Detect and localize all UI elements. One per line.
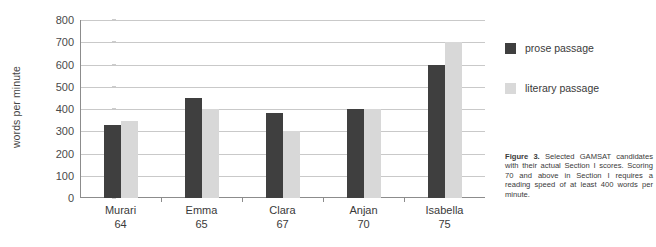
x-axis-separator: [404, 197, 405, 202]
plot-area: [80, 20, 485, 198]
x-axis-labels: Murari64Emma65Clara67Anjan70Isabella75: [80, 203, 485, 231]
bar[interactable]: [266, 113, 283, 198]
bar-group: [323, 20, 404, 198]
bar-group: [80, 20, 161, 198]
bar-groups: [80, 20, 485, 198]
x-axis-separator: [242, 197, 243, 202]
bar[interactable]: [121, 121, 138, 198]
x-axis-label: Murari64: [80, 203, 161, 231]
x-axis-label: Isabella75: [404, 203, 485, 231]
chart-legend: prose passageliterary passage: [505, 42, 651, 122]
x-axis-label-score: 70: [323, 217, 404, 231]
x-axis-label-name: Emma: [186, 204, 218, 216]
y-axis-tick-labels: 8007006005004003002001000: [36, 20, 74, 198]
x-axis-label-name: Isabella: [426, 204, 464, 216]
legend-item-label: literary passage: [525, 82, 599, 94]
x-axis-label: Anjan70: [323, 203, 404, 231]
y-tick-label: 400: [36, 103, 74, 115]
figure-container: words per minute 80070060050040030020010…: [0, 0, 656, 247]
figure-caption: Figure 3. Selected GAMSAT candidates wit…: [505, 152, 653, 199]
figure-caption-label: Figure 3.: [505, 152, 540, 161]
bar-group: [404, 20, 485, 198]
x-axis-separator: [161, 197, 162, 202]
bar[interactable]: [283, 131, 300, 198]
y-tick-label: 200: [36, 148, 74, 160]
y-tick-label: 300: [36, 125, 74, 137]
x-axis-label-name: Clara: [269, 204, 295, 216]
bar[interactable]: [445, 42, 462, 198]
x-axis-label-name: Murari: [105, 204, 136, 216]
bar[interactable]: [104, 125, 121, 198]
legend-item-label: prose passage: [525, 42, 594, 54]
x-axis-separator: [323, 197, 324, 202]
x-axis-label-score: 65: [161, 217, 242, 231]
y-tick-label: 500: [36, 81, 74, 93]
legend-swatch-icon: [505, 43, 516, 54]
y-tick-label: 800: [36, 14, 74, 26]
x-axis-label: Emma65: [161, 203, 242, 231]
bar-group: [161, 20, 242, 198]
y-tick-label: 700: [36, 36, 74, 48]
y-tick-label: 100: [36, 170, 74, 182]
bar[interactable]: [428, 65, 445, 199]
y-tick-label: 600: [36, 59, 74, 71]
y-tick-label: 0: [36, 192, 74, 204]
legend-swatch-icon: [505, 83, 516, 94]
legend-item[interactable]: literary passage: [505, 82, 651, 94]
x-axis-label-score: 64: [80, 217, 161, 231]
bar-chart: words per minute 80070060050040030020010…: [0, 0, 492, 247]
y-axis-title-label: words per minute: [10, 42, 22, 172]
x-axis-label: Clara67: [242, 203, 323, 231]
y-axis-title: words per minute: [10, 0, 22, 42]
bar-group: [242, 20, 323, 198]
bar[interactable]: [347, 109, 364, 198]
legend-item[interactable]: prose passage: [505, 42, 651, 54]
x-axis-label-score: 67: [242, 217, 323, 231]
bar[interactable]: [185, 98, 202, 198]
bar[interactable]: [202, 109, 219, 198]
x-axis-label-name: Anjan: [349, 204, 377, 216]
bar[interactable]: [364, 109, 381, 198]
x-axis-label-score: 75: [404, 217, 485, 231]
